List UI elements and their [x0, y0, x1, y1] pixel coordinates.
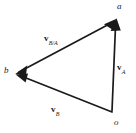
- vector-symbol-v-a: v: [117, 62, 122, 72]
- point-label-o: o: [114, 118, 119, 127]
- vector-shaft-v-b: [21, 76, 112, 112]
- point-label-a: a: [117, 2, 122, 11]
- vector-shaft-v-a: [112, 24, 116, 111]
- vector-shaft-v-b-over-a: [19, 21, 115, 72]
- arrowhead-at-b-from-v-b: [16, 73, 28, 82]
- vector-subscript-v-b: B: [56, 111, 60, 117]
- vector-diagram-figure: a b o vB/A vA vB: [0, 0, 136, 133]
- vector-label-v-b: vB: [51, 105, 59, 116]
- point-label-b: b: [4, 66, 9, 75]
- vector-line-v-b: [16, 73, 112, 112]
- vector-label-v-a: vA: [117, 63, 125, 74]
- vector-line-v-b-over-a: [15, 19, 117, 76]
- vector-subscript-v-a: A: [122, 69, 126, 75]
- vector-label-v-b-over-a: vB/A: [44, 34, 58, 45]
- vector-subscript-v-b-over-a: B/A: [49, 40, 58, 46]
- vector-symbol-v-b-over-a: v: [44, 33, 49, 43]
- vector-diagram-canvas: [0, 0, 136, 133]
- vector-symbol-v-b: v: [51, 104, 56, 114]
